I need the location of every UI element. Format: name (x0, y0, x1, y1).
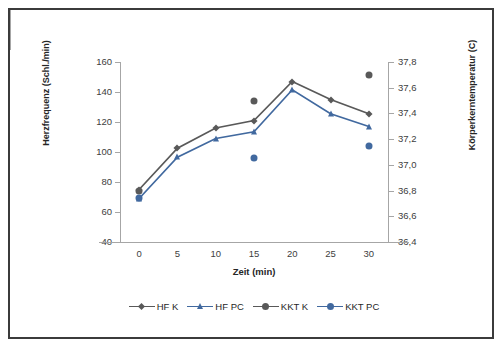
chart-figure: 406080100120140160 36,436,636,837,037,23… (0, 0, 502, 347)
plot-area (120, 62, 388, 242)
x-axis-tick (10, 45, 11, 50)
chart-legend: HF KHF PCKKT KKKT PC (120, 298, 388, 314)
data-point-marker (213, 135, 219, 141)
y-axis-right-ticklabel: 37,8 (398, 57, 428, 67)
y-axis-right-ticklabel: 37,0 (398, 160, 428, 170)
y-axis-right-tick (389, 139, 394, 140)
y-axis-right-ticklabel: 37,2 (398, 134, 428, 144)
y-axis-right-ticklabels: 36,436,636,837,037,237,437,637,8 (398, 10, 438, 310)
data-point-marker (251, 128, 257, 134)
x-axis-line (99, 242, 409, 243)
y-axis-right-ticklabel: 36,6 (398, 211, 428, 221)
series-line (139, 90, 369, 199)
y-axis-right-tick (389, 242, 394, 243)
legend-label: HF K (157, 301, 179, 312)
x-axis-ticklabel: 15 (239, 249, 269, 259)
data-point-marker (251, 155, 258, 162)
y-axis-left-ticklabel: 60 (86, 207, 112, 217)
legend-key-icon (317, 301, 343, 312)
y-axis-left-ticklabel: 120 (86, 117, 112, 127)
y-axis-right-tick (389, 62, 394, 63)
x-axis-ticklabel: 0 (124, 249, 154, 259)
x-axis-ticklabel: 30 (354, 249, 384, 259)
x-axis-title: Zeit (min) (120, 266, 388, 277)
y-axis-right-tick (389, 88, 394, 89)
data-point-marker (366, 123, 372, 129)
legend-key-icon (129, 301, 155, 312)
y-axis-right-tick (389, 113, 394, 114)
series-lines (120, 62, 388, 242)
y-axis-right-ticklabel: 37,4 (398, 108, 428, 118)
legend-item-kkt-pc[interactable]: KKT PC (317, 301, 379, 312)
y-axis-right-ticklabel: 36,8 (398, 186, 428, 196)
y-axis-left-ticklabel: 140 (86, 87, 112, 97)
y-axis-left-title: Herzfrequenz (Schl./min) (41, 23, 51, 163)
legend-label: HF PC (215, 301, 244, 312)
legend-item-hf-pc[interactable]: HF PC (187, 301, 244, 312)
y-axis-left-ticklabel: 100 (86, 147, 112, 157)
x-axis-ticklabel: 5 (162, 249, 192, 259)
data-point-marker (365, 142, 372, 149)
x-axis-ticklabel: 10 (201, 249, 231, 259)
figure-border: 406080100120140160 36,436,636,837,037,23… (8, 8, 494, 339)
legend-item-kkt-k[interactable]: KKT K (253, 301, 308, 312)
legend-item-hf-k[interactable]: HF K (129, 301, 179, 312)
data-point-marker (136, 195, 143, 202)
y-axis-right-tick (389, 216, 394, 217)
data-point-marker (289, 86, 295, 92)
legend-key-icon (253, 301, 279, 312)
y-axis-right-tick (389, 165, 394, 166)
data-point-marker (251, 97, 258, 104)
y-axis-right-title: Körperkerntemperatur (C) (467, 5, 477, 185)
x-axis-ticklabel: 25 (316, 249, 346, 259)
x-axis-ticklabel: 20 (277, 249, 307, 259)
data-point-marker (365, 71, 372, 78)
y-axis-left-ticklabel: 80 (86, 177, 112, 187)
legend-key-icon (187, 301, 213, 312)
y-axis-left-ticklabel: 160 (86, 57, 112, 67)
legend-label: KKT PC (345, 301, 379, 312)
data-point-marker (136, 187, 143, 194)
y-axis-right-ticklabel: 37,6 (398, 83, 428, 93)
y-axis-left-ticklabels: 406080100120140160 (82, 10, 112, 310)
legend-label: KKT K (281, 301, 308, 312)
y-axis-left-tick (115, 242, 120, 243)
data-point-marker (174, 154, 180, 160)
data-point-marker (328, 110, 334, 116)
y-axis-right-tick (389, 191, 394, 192)
